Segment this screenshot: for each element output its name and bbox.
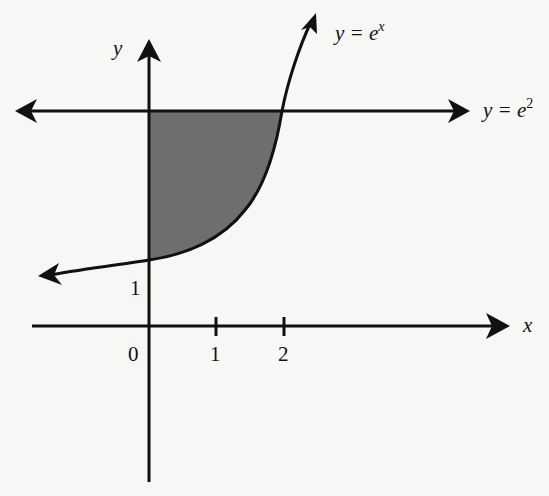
x-axis-label: x (523, 315, 532, 336)
graph-canvas (0, 0, 549, 496)
figure: y x 1 0 1 2 y = ex y = e2 (0, 0, 549, 496)
y-tick-label-1: 1 (130, 278, 141, 299)
curve-arrow-up-icon (301, 13, 317, 34)
line-label: y = e2 (483, 97, 533, 121)
origin-label: 0 (128, 344, 139, 365)
x-tick-label-1: 1 (210, 344, 221, 365)
line-label-base: y = e (483, 98, 526, 122)
x-tick-label-2: 2 (278, 344, 289, 365)
y-axis-label: y (113, 38, 122, 59)
curve-label: y = ex (335, 20, 385, 44)
line-label-exponent: 2 (526, 96, 533, 111)
curve-label-exponent: x (378, 19, 384, 34)
curve-label-base: y = e (335, 21, 378, 45)
